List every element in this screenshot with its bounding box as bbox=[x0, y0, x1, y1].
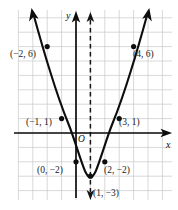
data-point-marker bbox=[45, 44, 50, 49]
y-axis-label: y bbox=[66, 11, 70, 21]
x-axis-label: x bbox=[166, 140, 170, 150]
point-label-neg2-6: (−2, 6) bbox=[10, 50, 36, 60]
point-label-2-neg2: (2, −2) bbox=[104, 166, 130, 176]
point-label-neg1-1: (−1, 1) bbox=[26, 118, 52, 128]
data-point-marker bbox=[73, 159, 78, 164]
data-point-marker bbox=[88, 174, 93, 179]
graph-canvas bbox=[0, 0, 178, 210]
point-label-1-neg3: (1, −3) bbox=[93, 189, 119, 199]
point-label-3-1: (3, 1) bbox=[119, 118, 140, 128]
data-point-marker bbox=[102, 159, 107, 164]
origin-label: O bbox=[78, 135, 85, 145]
point-label-0-neg2: (0, −2) bbox=[37, 166, 63, 176]
data-point-marker bbox=[59, 116, 64, 121]
point-label-4-6: (4, 6) bbox=[133, 50, 154, 60]
parabola-figure: (−2, 6) (−1, 1) (0, −2) (1, −3) (2, −2) … bbox=[0, 0, 178, 210]
